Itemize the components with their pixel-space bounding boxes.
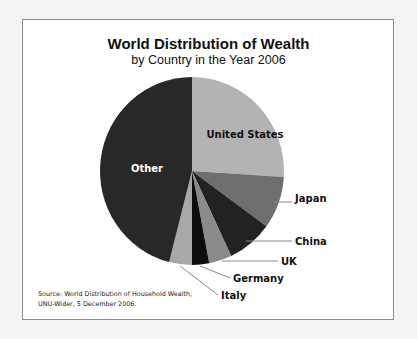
source-line-2: UNU-Wider, 5 December 2006. [38,299,192,309]
slice-label-china: China [295,236,327,247]
slice-label-uk: UK [281,256,298,267]
slice-label-germany: Germany [233,273,284,284]
leader-line [200,266,230,278]
source-line-1: Source: World Distribution of Household … [38,289,192,299]
source-note: Source: World Distribution of Household … [38,289,192,309]
slice-label-united-states: United States [206,129,283,140]
pie-slices [100,77,284,265]
slice-label-other: Other [131,163,163,174]
slice-label-italy: Italy [221,290,247,301]
slice-label-japan: Japan [294,193,327,204]
pie-slice-united-states [192,77,284,177]
